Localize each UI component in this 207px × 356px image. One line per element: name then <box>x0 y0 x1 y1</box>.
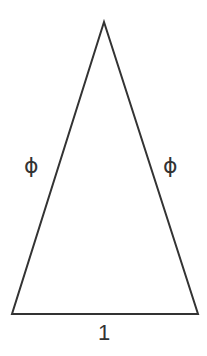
left-side-label: ϕ <box>24 155 39 177</box>
right-side-label: ϕ <box>163 155 178 177</box>
base-label: 1 <box>98 322 110 344</box>
golden-triangle-diagram <box>0 0 207 356</box>
